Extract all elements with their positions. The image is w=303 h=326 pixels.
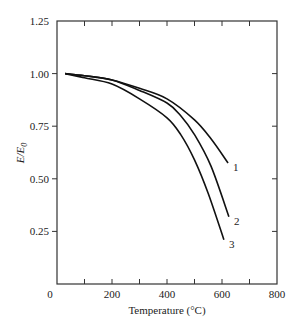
- curve-label-2: 2: [234, 215, 240, 227]
- x-tick-label: 800: [269, 288, 286, 300]
- data-curves: [65, 74, 229, 240]
- line-chart: 02004006008000.250.500.751.001.25 123 Te…: [0, 0, 303, 326]
- y-tick-label: 1.25: [30, 15, 50, 27]
- curve-labels: 123: [229, 161, 239, 250]
- axis-ticks: [52, 21, 277, 284]
- plot-frame: [57, 21, 277, 284]
- curve-label-3: 3: [229, 238, 235, 250]
- x-tick-label: 400: [159, 288, 176, 300]
- y-tick-label: 0.50: [30, 173, 50, 185]
- y-tick-label: 0.25: [30, 225, 50, 237]
- curve-3: [65, 74, 224, 240]
- chart: 02004006008000.250.500.751.001.25 123 Te…: [0, 0, 303, 326]
- curve-2: [65, 74, 229, 217]
- y-axis-title: E/E0: [14, 143, 29, 165]
- curve-label-1: 1: [233, 161, 239, 173]
- y-tick-label: 0.75: [30, 120, 50, 132]
- x-tick-label: 0: [47, 288, 53, 300]
- tick-labels: 02004006008000.250.500.751.001.25: [30, 15, 286, 300]
- x-tick-label: 600: [214, 288, 231, 300]
- x-axis-title: Temperature (°C): [128, 304, 206, 317]
- y-tick-label: 1.00: [30, 68, 50, 80]
- x-tick-label: 200: [104, 288, 121, 300]
- svg-text:E/E0: E/E0: [14, 143, 29, 165]
- y-axis-title-main: E/E: [14, 146, 26, 164]
- y-axis-title-subscript: 0: [20, 143, 29, 147]
